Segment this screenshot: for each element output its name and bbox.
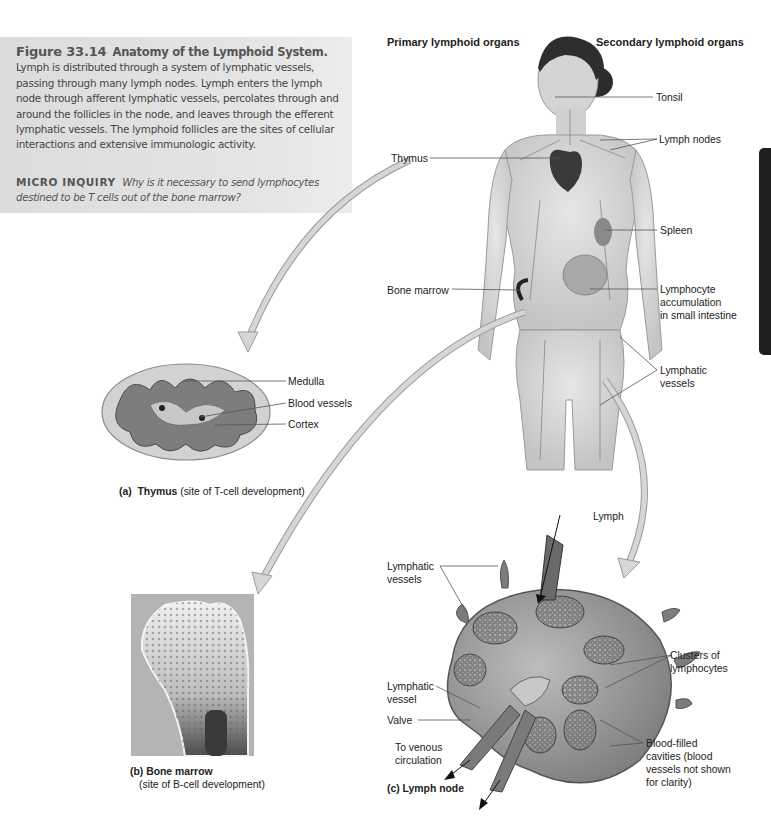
thymus-illustration xyxy=(102,364,270,460)
label-cortex: Cortex xyxy=(288,418,319,431)
label-medulla: Medulla xyxy=(288,375,324,388)
label-bone-marrow: Bone marrow xyxy=(387,284,449,297)
human-figure xyxy=(478,37,662,470)
label-thymus: Thymus xyxy=(391,152,428,165)
bone-marrow-panel-caption: (b) Bone marrow (site of B-cell developm… xyxy=(130,765,265,791)
secondary-organs-header: Secondary lymphoid organs xyxy=(596,36,744,48)
thymus-panel-caption: (a) Thymus (site of T-cell development) xyxy=(119,485,305,498)
label-lymphatic-vessel: Lymphatic vessel xyxy=(387,680,434,706)
label-blood-filled-cavities: Blood-filled cavities (blood vessels not… xyxy=(646,737,731,789)
bone-marrow-photo xyxy=(131,594,254,756)
label-lymphatic-vessels-node: Lymphatic vessels xyxy=(387,560,434,586)
label-lymphatic-vessels-body: Lymphatic vessels xyxy=(660,364,707,390)
label-valve: Valve xyxy=(387,714,412,727)
label-clusters-of-lymphocytes: Clusters of lymphocytes xyxy=(670,649,728,675)
label-tonsil: Tonsil xyxy=(656,91,683,104)
label-lymph-nodes: Lymph nodes xyxy=(659,133,721,146)
label-to-venous-circulation: To venous circulation xyxy=(395,741,442,767)
primary-organs-header: Primary lymphoid organs xyxy=(387,36,520,48)
label-lymphocyte-accumulation: Lymphocyte accumulation in small intesti… xyxy=(660,283,737,322)
lymph-node-panel-caption: (c) Lymph node xyxy=(387,782,464,795)
label-blood-vessels: Blood vessels xyxy=(288,397,352,410)
label-lymph: Lymph xyxy=(593,510,624,523)
label-spleen: Spleen xyxy=(660,224,692,237)
